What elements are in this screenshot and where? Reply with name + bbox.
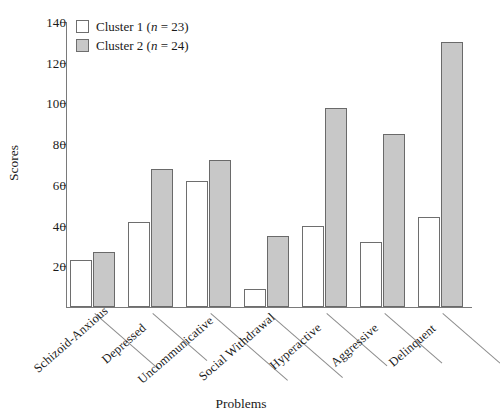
bar-cluster-2 xyxy=(209,160,231,307)
bar-group xyxy=(182,22,240,307)
bar-cluster-1 xyxy=(360,242,382,307)
y-axis-tick-label-20: 20 xyxy=(30,260,66,273)
y-axis-tick-label-140: 140 xyxy=(30,16,66,29)
bar-cluster-2 xyxy=(441,42,463,307)
bar-group xyxy=(356,22,414,307)
bar-group xyxy=(124,22,182,307)
bar-group xyxy=(66,22,124,307)
bar-cluster-1 xyxy=(418,217,440,307)
y-axis-tick-label-100: 100 xyxy=(30,97,66,110)
x-axis-title: Problems xyxy=(0,396,482,412)
bar-cluster-2 xyxy=(151,169,173,307)
y-axis-tick-label-40: 40 xyxy=(30,220,66,233)
bar-cluster-1 xyxy=(186,181,208,307)
x-axis-label-aggressive: Aggressive xyxy=(328,321,382,371)
bar-cluster-1 xyxy=(70,260,92,307)
y-axis-tick-label-120: 120 xyxy=(30,57,66,70)
bar-group xyxy=(414,22,472,307)
bar-cluster-2 xyxy=(93,252,115,307)
bar-group xyxy=(240,22,298,307)
y-axis-tick-label-80: 80 xyxy=(30,138,66,151)
bar-cluster-2 xyxy=(383,134,405,307)
x-axis-label-schizoid-anxious: Schizoid-Anxious xyxy=(31,304,111,377)
x-axis-label-depressed: Depressed xyxy=(99,321,150,368)
bar-cluster-1 xyxy=(244,289,266,307)
bar-cluster-1 xyxy=(302,226,324,307)
x-label-leader-line xyxy=(442,313,500,364)
bar-cluster-2 xyxy=(267,236,289,307)
x-axis-label-hyperactive: Hyperactive xyxy=(267,320,325,373)
x-axis-label-delinquent: Delinquent xyxy=(386,321,439,370)
x-axis-line xyxy=(66,307,472,308)
bar-cluster-1 xyxy=(128,222,150,308)
bar-group xyxy=(298,22,356,307)
plot-area xyxy=(66,22,472,307)
y-axis-tick-label-60: 60 xyxy=(30,179,66,192)
bar-cluster-2 xyxy=(325,108,347,308)
